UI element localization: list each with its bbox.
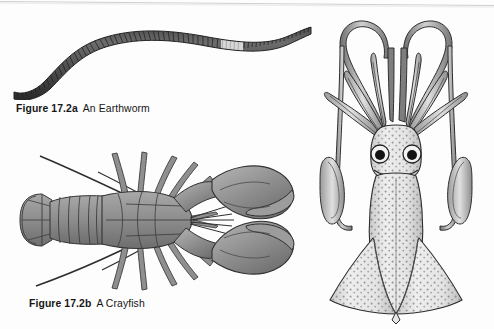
caption-a-number: Figure 17.2a — [16, 103, 78, 114]
caption-figure-a: Figure 17.2aAn Earthworm — [16, 103, 150, 114]
earthworm-body — [8, 12, 318, 100]
crayfish-cheliped-lower — [174, 221, 294, 274]
figure-page: Figure 17.2aAn Earthworm — [0, 0, 494, 329]
crayfish-cheliped-upper — [174, 166, 294, 219]
crayfish-tail-fan — [20, 194, 52, 246]
squid-head — [371, 125, 421, 180]
figure-earthworm-illustration — [8, 12, 318, 100]
caption-a-text: An Earthworm — [78, 103, 150, 114]
crayfish-rostrum — [190, 206, 234, 234]
caption-b-number: Figure 17.2b — [29, 298, 91, 309]
figure-crayfish-illustration — [6, 140, 306, 300]
figure-squid-illustration — [300, 8, 492, 326]
crayfish-abdomen — [50, 196, 104, 245]
caption-b-text: A Crayfish — [91, 298, 144, 309]
caption-figure-b: Figure 17.2bA Crayfish — [29, 298, 145, 309]
